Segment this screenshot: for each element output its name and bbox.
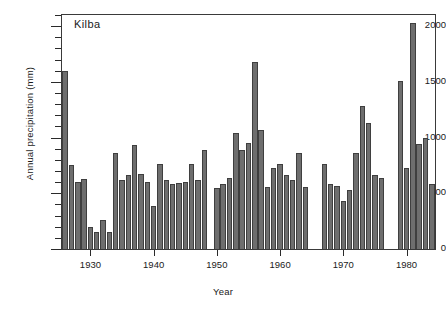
x-tick — [280, 250, 281, 256]
bar — [284, 175, 289, 249]
x-tick-label: 1970 — [323, 259, 363, 270]
y-tick-major — [51, 26, 61, 27]
bar — [416, 144, 421, 249]
y-axis-label: Annual precipitation (mm) — [24, 29, 35, 219]
bar — [62, 71, 67, 249]
y-tick-minor — [55, 182, 61, 183]
bar — [246, 143, 251, 249]
y-tick-minor — [55, 216, 61, 217]
bar — [220, 184, 225, 249]
x-tick — [90, 250, 91, 256]
y-tick-minor — [55, 126, 61, 127]
y-tick-minor — [55, 104, 61, 105]
bar — [145, 182, 150, 249]
bar — [183, 182, 188, 249]
y-tick-minor — [55, 115, 61, 116]
bar — [69, 165, 74, 249]
bar — [164, 180, 169, 249]
bar — [157, 164, 162, 249]
bar — [195, 180, 200, 249]
bar — [151, 206, 156, 249]
bar — [423, 138, 428, 249]
bar — [170, 184, 175, 249]
y-tick-minor — [55, 171, 61, 172]
bar — [113, 153, 118, 249]
y-tick-minor — [55, 149, 61, 150]
bar — [303, 187, 308, 249]
bar — [88, 227, 93, 249]
bar — [360, 106, 365, 249]
bar — [132, 145, 137, 249]
x-tick — [217, 250, 218, 256]
y-tick-major — [51, 138, 61, 139]
bar — [429, 184, 434, 249]
bar — [119, 180, 124, 249]
bar — [366, 123, 371, 249]
bar — [189, 164, 194, 249]
x-tick-label: 1960 — [260, 259, 300, 270]
y-tick-minor — [55, 238, 61, 239]
bar — [404, 168, 409, 249]
bar — [265, 187, 270, 249]
y-tick-minor — [55, 204, 61, 205]
bar — [334, 186, 339, 250]
bar — [176, 183, 181, 249]
bar — [227, 178, 232, 249]
bar — [328, 184, 333, 249]
bar — [138, 174, 143, 249]
bar — [322, 164, 327, 249]
bar — [233, 133, 238, 249]
bar — [239, 150, 244, 249]
bar-series — [62, 15, 435, 249]
bar — [271, 168, 276, 249]
x-tick-label: 1980 — [387, 259, 427, 270]
bar — [379, 178, 384, 249]
bar — [277, 164, 282, 249]
y-tick-minor — [55, 60, 61, 61]
x-tick — [343, 250, 344, 256]
bar — [410, 23, 415, 249]
y-tick-major — [51, 193, 61, 194]
bar — [214, 188, 219, 249]
bar — [347, 190, 352, 249]
y-tick-minor — [55, 227, 61, 228]
bar — [398, 81, 403, 249]
x-tick-label: 1930 — [70, 259, 110, 270]
y-tick-major — [51, 249, 61, 250]
y-tick-minor — [55, 93, 61, 94]
x-axis-label: Year — [0, 286, 446, 297]
bar — [258, 130, 263, 249]
y-tick-minor — [55, 71, 61, 72]
bar — [75, 182, 80, 249]
x-tick-label: 1950 — [197, 259, 237, 270]
bar — [126, 175, 131, 249]
bar — [353, 153, 358, 249]
bar — [296, 153, 301, 249]
bar — [372, 175, 377, 249]
bar — [290, 180, 295, 249]
bar — [252, 62, 257, 249]
x-tick-label: 1940 — [134, 259, 174, 270]
bar — [100, 220, 105, 249]
y-tick-minor — [55, 48, 61, 49]
bar — [94, 232, 99, 249]
x-tick — [407, 250, 408, 256]
y-tick-minor — [55, 37, 61, 38]
bar — [81, 179, 86, 249]
y-tick-minor — [55, 160, 61, 161]
x-tick — [154, 250, 155, 256]
y-tick-major — [51, 82, 61, 83]
bar — [107, 232, 112, 249]
precipitation-bar-chart: Kilba Annual precipitation (mm) Year 050… — [0, 0, 446, 311]
y-tick-minor — [55, 15, 61, 16]
bar — [341, 201, 346, 249]
bar — [202, 150, 207, 249]
